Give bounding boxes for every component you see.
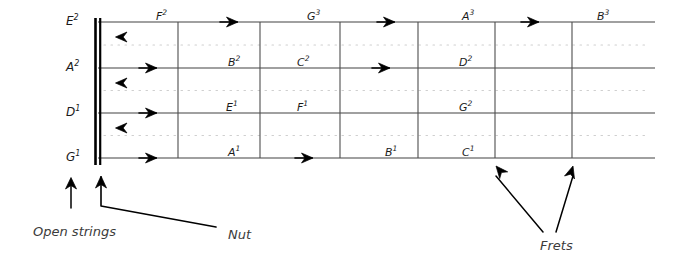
string-G1-note-2-octave: 1 xyxy=(393,144,398,153)
annotation-open-strings: Open strings xyxy=(33,224,116,239)
fretboard-canvas xyxy=(0,0,685,259)
string-E2-right-arrow-2 xyxy=(377,17,395,27)
string-E2-open-label-octave: 2 xyxy=(74,13,79,22)
string-E2-note-4: B3 xyxy=(597,8,609,23)
string-D1-note-3-octave: 2 xyxy=(468,99,473,108)
frets-pointer-2 xyxy=(556,166,574,232)
string-E2-right-arrow-3 xyxy=(521,17,539,27)
string-A2-left-arrow xyxy=(116,78,128,88)
nut-pointer xyxy=(96,176,217,227)
string-D1-note-1-octave: 1 xyxy=(233,99,238,108)
string-A2-open-label-octave: 2 xyxy=(74,59,79,68)
string-D1-note-3: G2 xyxy=(459,99,472,114)
string-E2-note-1: F2 xyxy=(156,8,167,23)
string-D1-note-2: F1 xyxy=(297,99,308,114)
open-strings-pointer xyxy=(66,178,77,209)
string-G1-note-1: A1 xyxy=(228,144,240,159)
string-D1-open-label: D1 xyxy=(66,104,80,119)
string-D1-open-label-octave: 1 xyxy=(75,104,80,113)
string-D1-note-1: E1 xyxy=(226,99,238,114)
string-E2-left-arrow xyxy=(116,32,128,42)
string-E2-right-arrow-1 xyxy=(220,17,238,27)
string-A2-right-arrow-1 xyxy=(139,63,157,73)
string-E2-note-3: A3 xyxy=(462,8,474,23)
string-E2-note-2: G3 xyxy=(307,8,320,23)
string-A2-right-arrow-2 xyxy=(372,63,390,73)
string-G1-note-1-octave: 1 xyxy=(236,144,241,153)
string-D1-right-arrow-1 xyxy=(139,108,157,118)
annotation-frets: Frets xyxy=(540,238,573,253)
string-E2-note-4-octave: 3 xyxy=(605,8,610,17)
string-G1-note-2: B1 xyxy=(385,144,397,159)
frets-pointer-1 xyxy=(496,166,543,232)
string-G1-note-3-octave: 1 xyxy=(470,144,475,153)
string-E2-note-1-octave: 2 xyxy=(162,8,167,17)
string-A2-note-2: C2 xyxy=(297,54,309,69)
string-G1-note-3: C1 xyxy=(462,144,474,159)
string-A2-note-2-octave: 2 xyxy=(305,54,310,63)
fretboard-diagram: E2A2D1G1F2G3A3B3B2C2D2E1F1G2A1B1C1Open s… xyxy=(0,0,685,259)
string-A2-note-1: B2 xyxy=(228,54,240,69)
string-A2-note-3: D2 xyxy=(459,54,472,69)
string-G1-open-label-octave: 1 xyxy=(75,149,80,158)
string-E2-note-2-octave: 3 xyxy=(316,8,321,17)
string-G1-right-arrow-1 xyxy=(139,153,157,163)
string-D1-left-arrow xyxy=(116,123,128,133)
string-E2-open-label: E2 xyxy=(66,13,79,28)
string-A2-open-label: A2 xyxy=(66,59,79,74)
string-A2-note-3-octave: 2 xyxy=(467,54,472,63)
annotation-nut: Nut xyxy=(228,227,251,242)
string-E2-note-3-octave: 3 xyxy=(470,8,475,17)
string-G1-right-arrow-2 xyxy=(295,153,313,163)
string-D1-note-2-octave: 1 xyxy=(303,99,308,108)
string-A2-note-1-octave: 2 xyxy=(236,54,241,63)
string-G1-open-label: G1 xyxy=(66,149,80,164)
